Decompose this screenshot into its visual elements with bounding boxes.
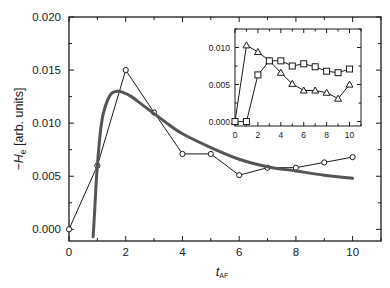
circle-marker [350,155,355,160]
y-axis-label: −He [arb. units] [12,88,28,171]
square-marker [278,58,284,64]
square-marker [301,61,307,67]
main-y-tick-label: 0.000 [32,223,61,235]
square-marker [347,66,353,72]
main-x-tick-label: 0 [66,246,72,258]
square-marker [324,68,330,74]
circle-marker [322,160,327,165]
main-x-tick-label: 2 [123,246,129,258]
main-y-tick-label: 0.015 [32,64,61,76]
x-axis-label: tAF [216,264,229,279]
square-marker [255,72,261,78]
circle-marker [66,227,71,232]
inset-x-tick-label: 2 [256,130,261,140]
square-marker [243,119,249,125]
inset-y-tick-label: 0.000 [209,117,231,127]
main-x-tick-label: 10 [346,246,359,258]
square-marker [232,119,238,125]
inset-y-tick-label: 0.010 [209,43,231,53]
main-x-tick-label: 8 [293,246,299,258]
circle-marker [208,151,213,156]
inset-x-tick-label: 8 [324,130,329,140]
main-x-tick-label: 6 [236,246,242,258]
chart-figure: 02468100.0000.0050.0100.0150.020 0246810… [0,0,390,288]
square-marker [312,64,318,70]
inset-x-tick-label: 10 [345,130,355,140]
main-y-tick-label: 0.010 [32,117,61,129]
square-marker [266,58,272,64]
inset-x-tick-label: 0 [233,130,238,140]
square-marker [335,70,341,76]
circle-marker [180,151,185,156]
inset-x-tick-label: 4 [278,130,283,140]
square-marker [289,63,295,69]
inset-frame [235,29,361,126]
inset-x-tick-label: 6 [301,130,306,140]
main-y-tick-label: 0.020 [32,11,61,23]
circle-marker [123,67,128,72]
inset-y-tick-label: 0.005 [209,80,231,90]
main-y-tick-label: 0.005 [32,170,61,182]
circle-marker [237,173,242,178]
main-x-tick-label: 4 [179,246,186,258]
